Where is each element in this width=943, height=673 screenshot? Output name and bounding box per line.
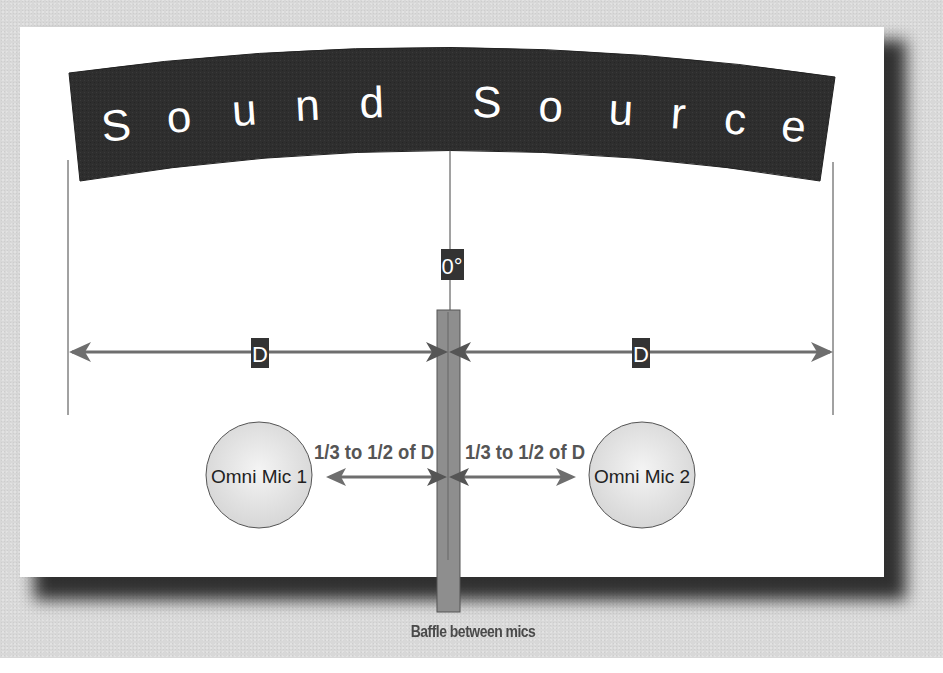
zero-degree-label: 0° bbox=[441, 249, 464, 280]
svg-text:Omni Mic 1: Omni Mic 1 bbox=[211, 466, 307, 487]
banner-letter: o bbox=[538, 81, 564, 131]
banner-letter: S bbox=[472, 77, 502, 127]
mic-spacing-label-right: 1/3 to 1/2 of D bbox=[465, 441, 585, 463]
banner-letter: e bbox=[779, 100, 808, 151]
banner-letter: u bbox=[608, 84, 635, 134]
banner-letter: d bbox=[359, 77, 385, 127]
baffle-caption: Baffle between mics bbox=[86, 622, 859, 642]
mic-spacing-arrow-right bbox=[449, 468, 576, 486]
omni-mic-2: Omni Mic 2 bbox=[589, 422, 695, 528]
stereo-mic-diagram: S o u n d S o u r c e 0° D D bbox=[0, 0, 943, 673]
svg-text:0°: 0° bbox=[441, 254, 462, 279]
mic-spacing-label-left: 1/3 to 1/2 of D bbox=[314, 441, 434, 463]
svg-text:Omni Mic 2: Omni Mic 2 bbox=[594, 466, 690, 487]
distance-label-right: D bbox=[632, 338, 650, 368]
mic-spacing-arrow-left bbox=[326, 468, 447, 486]
svg-text:D: D bbox=[252, 342, 268, 367]
svg-text:D: D bbox=[633, 342, 649, 367]
sound-source-banner: S o u n d S o u r c e bbox=[69, 47, 835, 181]
banner-letter: o bbox=[165, 91, 194, 142]
banner-letter: n bbox=[294, 80, 321, 130]
banner-letter: u bbox=[230, 84, 258, 135]
banner-letter: S bbox=[99, 99, 133, 151]
omni-mic-1: Omni Mic 1 bbox=[206, 422, 312, 528]
distance-label-left: D bbox=[251, 338, 269, 368]
banner-letter: c bbox=[722, 93, 748, 144]
